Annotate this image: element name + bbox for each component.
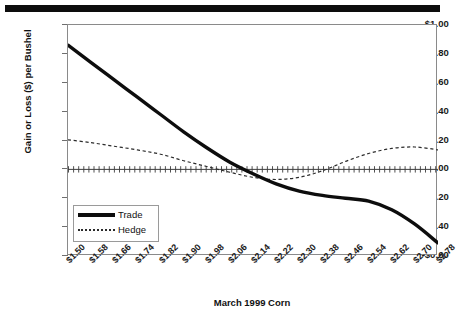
x-axis-title: March 1999 Corn [67, 297, 437, 308]
legend-label-trade: Trade [118, 209, 142, 220]
y-axis-title: Gain or Loss ($) per Bushel [22, 2, 33, 182]
legend-item-trade: Trade [78, 209, 156, 223]
top-rule-decoration [5, 5, 440, 12]
series-zero-line [68, 166, 438, 172]
legend-swatch-trade-icon [78, 213, 115, 217]
